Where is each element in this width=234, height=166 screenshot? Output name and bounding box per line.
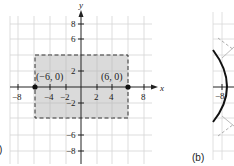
y-tick-label: −8 — [66, 146, 76, 156]
asymptote-upper — [218, 38, 234, 50]
x-tick-label: −4 — [44, 92, 54, 102]
panel-b-x-tick-label: −8 — [215, 91, 225, 101]
y-tick-label: −2 — [66, 98, 76, 108]
hyperbola-branch — [213, 50, 227, 122]
y-tick-label: 8 — [71, 19, 76, 29]
y-axis-arrow-icon — [79, 10, 84, 17]
panel-a-label: ) — [0, 144, 2, 155]
x-axis-arrow-icon — [151, 85, 158, 90]
y-tick-label: −6 — [66, 130, 76, 140]
guide-lower — [222, 116, 234, 126]
x-tick-label: −8 — [12, 92, 22, 102]
point-label-neg6-0: (−6, 0) — [36, 71, 63, 83]
panel-b-grid — [213, 12, 234, 160]
x-tick-label: 8 — [141, 92, 146, 102]
x-axis-label: x — [159, 83, 164, 93]
panel-b-label: (b) — [192, 152, 204, 163]
x-tick-label: 4 — [109, 92, 114, 102]
guide-upper — [222, 47, 234, 58]
y-tick-label: 2 — [71, 66, 76, 76]
point-6-0 — [125, 84, 130, 89]
y-tick-label: 6 — [71, 34, 76, 44]
figure-canvas: x y −8 −4 −2 2 4 8 8 6 2 −2 −6 −8 (−6, 0… — [0, 0, 234, 166]
y-axis-label: y — [78, 0, 83, 10]
point-neg6-0 — [32, 84, 37, 89]
asymptote-lower — [218, 124, 234, 136]
x-tick-label: 2 — [94, 92, 99, 102]
point-label-6-0: (6, 0) — [101, 71, 123, 83]
